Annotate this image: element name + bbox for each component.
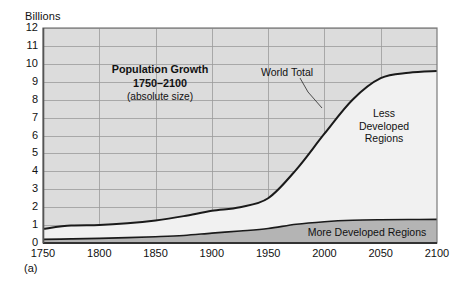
y-tick-11: 11 bbox=[12, 39, 38, 51]
y-tick-5: 5 bbox=[12, 146, 38, 158]
chart-title-line1: Population Growth bbox=[95, 63, 225, 77]
figure-label: (a) bbox=[24, 262, 37, 274]
y-tick-9: 9 bbox=[12, 75, 38, 87]
y-tick-2: 2 bbox=[12, 200, 38, 212]
chart-title-annotation: Population Growth 1750–2100 (absolute si… bbox=[95, 63, 225, 104]
y-tick-8: 8 bbox=[12, 93, 38, 105]
y-tick-10: 10 bbox=[12, 57, 38, 69]
y-tick-3: 3 bbox=[12, 182, 38, 194]
x-tick-1850: 1850 bbox=[131, 247, 181, 259]
figure-population-growth: Billions 0123456789101112 17501800185019… bbox=[0, 0, 459, 290]
x-tick-1950: 1950 bbox=[243, 247, 293, 259]
x-tick-2000: 2000 bbox=[299, 247, 349, 259]
less-developed-line3: Regions bbox=[365, 132, 404, 144]
y-tick-1: 1 bbox=[12, 218, 38, 230]
less-developed-line2: Developed bbox=[359, 120, 409, 132]
label-less-developed-regions: Less Developed Regions bbox=[348, 107, 420, 145]
chart-title-line3: (absolute size) bbox=[95, 90, 225, 104]
x-tick-2050: 2050 bbox=[356, 247, 406, 259]
label-more-developed-regions: More Developed Regions bbox=[301, 226, 433, 239]
x-tick-1900: 1900 bbox=[187, 247, 237, 259]
x-tick-1800: 1800 bbox=[74, 247, 124, 259]
chart-title-line2: 1750–2100 bbox=[95, 77, 225, 91]
x-tick-1750: 1750 bbox=[18, 247, 68, 259]
x-tick-2100: 2100 bbox=[412, 247, 459, 259]
y-tick-7: 7 bbox=[12, 111, 38, 123]
less-developed-line1: Less bbox=[373, 107, 395, 119]
y-tick-4: 4 bbox=[12, 164, 38, 176]
label-world-total: World Total bbox=[247, 66, 327, 79]
y-tick-6: 6 bbox=[12, 129, 38, 141]
y-tick-12: 12 bbox=[12, 21, 38, 33]
